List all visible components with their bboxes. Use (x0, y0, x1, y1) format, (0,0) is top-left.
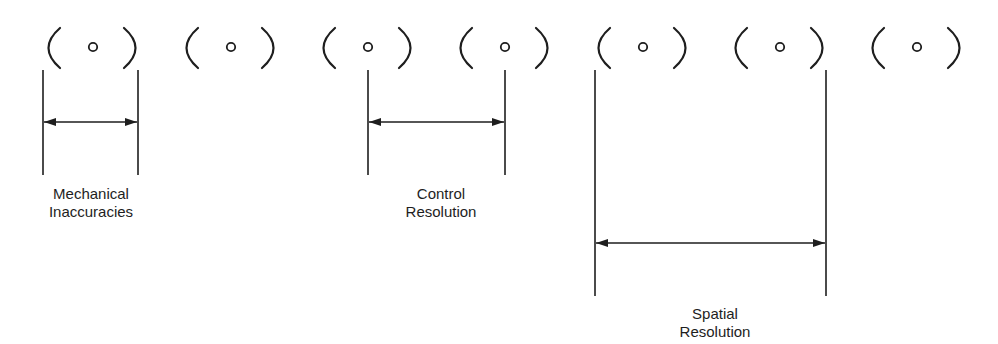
cell-6 (736, 28, 823, 68)
label-line: Inaccuracies (49, 203, 133, 221)
point-icon (364, 43, 372, 51)
right-bracket-icon (536, 28, 548, 68)
left-bracket-icon (187, 28, 199, 68)
cell-2 (187, 28, 274, 68)
point-icon (776, 43, 784, 51)
dimension-lines (43, 70, 826, 296)
point-icon (501, 43, 509, 51)
right-bracket-icon (811, 28, 823, 68)
cell-3 (324, 28, 411, 68)
left-bracket-icon (736, 28, 748, 68)
point-icon (639, 43, 647, 51)
label-line: Control (406, 185, 477, 203)
left-bracket-icon (324, 28, 336, 68)
point-icon (89, 43, 97, 51)
resolution-diagram (0, 0, 998, 344)
cell-7 (873, 28, 960, 68)
label-control-resolution: Control Resolution (406, 185, 477, 221)
right-bracket-icon (399, 28, 411, 68)
dimension-mechanical-inaccuracies (43, 70, 138, 175)
left-bracket-icon (873, 28, 885, 68)
label-line: Resolution (406, 203, 477, 221)
label-line: Mechanical (49, 185, 133, 203)
right-bracket-icon (674, 28, 686, 68)
left-bracket-icon (599, 28, 611, 68)
cell-1 (49, 28, 136, 68)
cell-4 (461, 28, 548, 68)
label-mechanical-inaccuracies: Mechanical Inaccuracies (49, 185, 133, 221)
label-line: Spatial (680, 305, 751, 323)
cell-5 (599, 28, 686, 68)
point-icon (913, 43, 921, 51)
left-bracket-icon (461, 28, 473, 68)
right-bracket-icon (262, 28, 274, 68)
left-bracket-icon (49, 28, 61, 68)
dimension-control-resolution (368, 70, 505, 175)
right-bracket-icon (124, 28, 136, 68)
label-line: Resolution (680, 323, 751, 341)
right-bracket-icon (948, 28, 960, 68)
label-spatial-resolution: Spatial Resolution (680, 305, 751, 341)
resolution-cells (49, 28, 960, 68)
dimension-spatial-resolution (595, 70, 826, 296)
point-icon (227, 43, 235, 51)
